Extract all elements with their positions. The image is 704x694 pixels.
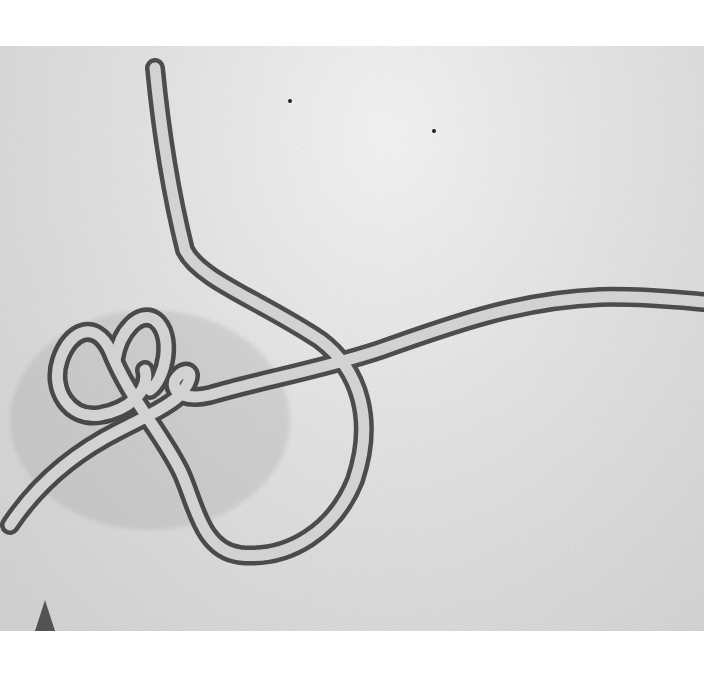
virus-filament-illustration	[0, 46, 704, 631]
micrograph	[0, 46, 704, 631]
